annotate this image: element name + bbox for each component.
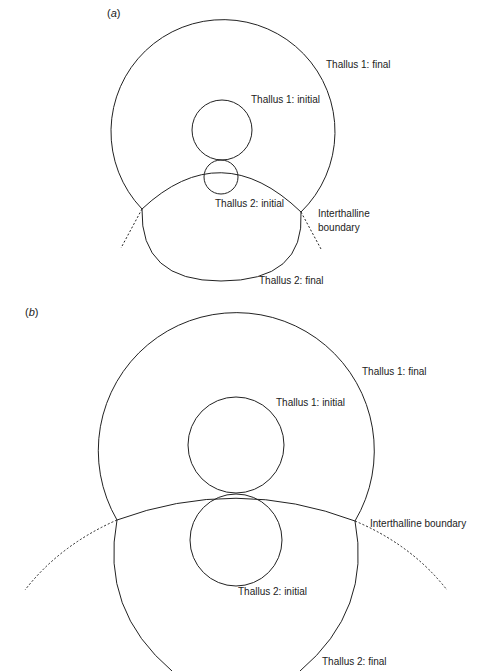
label-thallus2-final-b: Thallus 2: final — [322, 656, 386, 668]
panel-a-label: (a) — [107, 7, 120, 19]
thallus2-final-outline-b — [114, 498, 358, 671]
label-interthalline-a-1: Interthalline — [318, 208, 370, 220]
label-thallus2-initial-a: Thallus 2: initial — [215, 198, 284, 210]
label-thallus1-initial-b: Thallus 1: initial — [276, 397, 345, 409]
panel-b-label: (b) — [25, 306, 38, 318]
label-thallus1-final-b: Thallus 1: final — [362, 366, 426, 378]
thallus2-final-outline-a — [142, 173, 301, 281]
label-interthalline-b: Interthalline boundary — [370, 518, 466, 530]
thallus2-initial-b — [190, 494, 282, 586]
thallus2-initial-a — [204, 160, 238, 194]
label-thallus2-initial-b: Thallus 2: initial — [238, 586, 307, 598]
interthalline-boundary-b-left — [25, 520, 117, 590]
thallus1-initial-a — [192, 100, 252, 160]
thallus1-final-outline-a — [111, 20, 335, 212]
thallus1-initial-b — [188, 397, 284, 493]
interthalline-boundary-b-right — [355, 521, 447, 590]
label-thallus1-final-a: Thallus 1: final — [326, 59, 390, 71]
label-thallus2-final-a: Thallus 2: final — [259, 275, 323, 287]
label-interthalline-a-2: boundary — [318, 222, 360, 234]
panel-a-figure — [111, 20, 335, 281]
thallus1-final-outline-b — [98, 313, 374, 521]
thallus-growth-diagram — [0, 0, 492, 671]
interthalline-boundary-a-left — [121, 209, 142, 248]
label-thallus1-initial-a: Thallus 1: initial — [251, 94, 320, 106]
